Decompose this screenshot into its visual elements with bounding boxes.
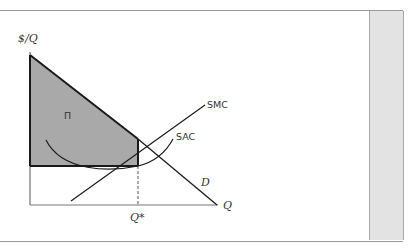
smc-label: SMC xyxy=(207,99,228,110)
profit-label: Π xyxy=(64,110,71,121)
demand-curve xyxy=(138,139,217,205)
sac-label: SAC xyxy=(176,131,196,142)
profit-region xyxy=(30,55,138,166)
q-star-label: Q* xyxy=(130,211,145,224)
x-axis-label: Q xyxy=(223,199,232,212)
y-axis-label: $/Q xyxy=(18,32,38,45)
demand-label: D xyxy=(200,176,210,189)
economics-diagram: $/Q Q Π SMC SAC D Q* xyxy=(0,0,420,249)
